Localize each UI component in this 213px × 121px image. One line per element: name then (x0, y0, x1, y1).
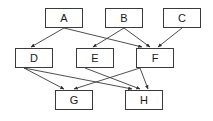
edge-e-to-h (85, 68, 140, 89)
edge-d-to-g (24, 68, 64, 89)
node-label-g: G (70, 95, 79, 106)
edge-a-to-d (31, 28, 64, 47)
node-h[interactable]: H (125, 90, 163, 110)
node-a[interactable]: A (45, 8, 83, 28)
edge-a-to-f (64, 28, 142, 47)
node-label-a: A (60, 13, 67, 24)
edge-b-to-f (124, 28, 150, 47)
edge-f-to-g (74, 68, 140, 89)
node-c[interactable]: C (163, 8, 201, 28)
edge-b-to-e (93, 28, 124, 47)
node-label-d: D (30, 53, 38, 64)
node-f[interactable]: F (136, 48, 174, 68)
node-label-f: F (152, 53, 159, 64)
edge-d-to-h (24, 68, 132, 89)
node-label-c: C (178, 13, 186, 24)
node-b[interactable]: B (105, 8, 143, 28)
node-d[interactable]: D (15, 48, 53, 68)
dag-diagram: ABCDEFGH (0, 0, 213, 121)
edge-c-to-f (158, 28, 182, 47)
node-g[interactable]: G (55, 90, 93, 110)
node-label-b: B (120, 13, 127, 24)
node-label-e: E (91, 53, 98, 64)
node-e[interactable]: E (76, 48, 114, 68)
edge-f-to-h (140, 68, 148, 89)
node-label-h: H (140, 95, 148, 106)
